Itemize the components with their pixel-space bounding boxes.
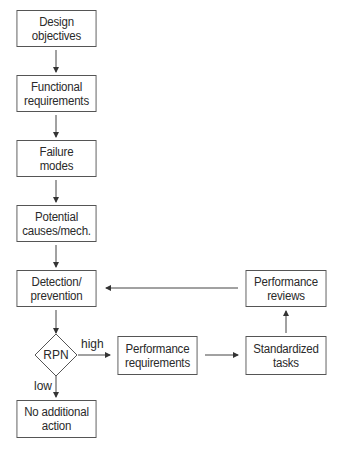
node-label: Failure modes [40, 145, 74, 173]
node-label: Design objectives [32, 15, 81, 43]
node-standardized-tasks: Standardized tasks [246, 336, 327, 375]
node-no-additional-action: No additional action [16, 400, 96, 438]
node-label: Detection/ prevention [31, 275, 83, 303]
node-design-objectives: Design objectives [16, 10, 96, 47]
node-label: Potential causes/mech. [22, 210, 91, 238]
edge-label-high: high [81, 337, 104, 351]
edge-label-low: low [34, 379, 52, 393]
node-failure-modes: Failure modes [16, 140, 96, 177]
node-label: Performance requirements [125, 342, 190, 370]
node-potential-causes: Potential causes/mech. [16, 205, 96, 242]
node-functional-requirements: Functional requirements [16, 75, 96, 112]
node-label: Functional requirements [24, 80, 89, 108]
node-label: Standardized tasks [253, 342, 319, 370]
rpn-decision-label: RPN [36, 348, 76, 362]
node-performance-reviews: Performance reviews [246, 270, 327, 307]
node-detection-prevention: Detection/ prevention [16, 270, 96, 307]
node-performance-requirements: Performance requirements [117, 336, 197, 375]
node-label: Performance reviews [254, 275, 318, 303]
node-label: No additional action [24, 405, 89, 433]
